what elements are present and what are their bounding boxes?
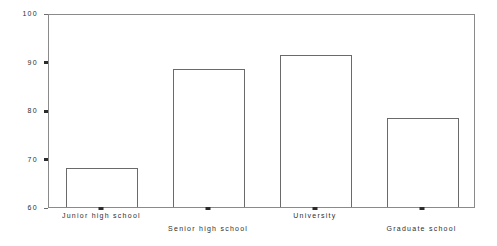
bar xyxy=(387,118,459,207)
y-axis-tick-label: 60 xyxy=(28,202,38,213)
y-axis: 60708090100 xyxy=(0,0,48,246)
y-axis-tick-label: 80 xyxy=(28,105,38,116)
x-axis-category-label: University xyxy=(293,211,336,221)
plot-area xyxy=(48,14,475,208)
x-axis-category-label: Senior high school xyxy=(168,224,248,234)
bar xyxy=(280,55,352,207)
x-axis-tick-mark xyxy=(419,207,424,210)
y-axis-tick-mark xyxy=(44,208,48,209)
bar xyxy=(173,69,245,207)
x-axis-tick-mark xyxy=(312,207,317,210)
x-axis-category-label: Junior high school xyxy=(62,211,141,221)
bar-chart: 60708090100 Junior high schoolSenior hig… xyxy=(0,0,497,246)
y-axis-tick-label: 90 xyxy=(28,57,38,68)
y-axis-tick-label: 70 xyxy=(28,154,38,165)
bar xyxy=(66,168,138,207)
x-axis-tick-mark xyxy=(99,207,104,210)
y-axis-tick-label: 100 xyxy=(22,8,38,19)
x-axis-tick-mark xyxy=(206,207,211,210)
x-axis-category-label: Graduate school xyxy=(387,224,457,234)
